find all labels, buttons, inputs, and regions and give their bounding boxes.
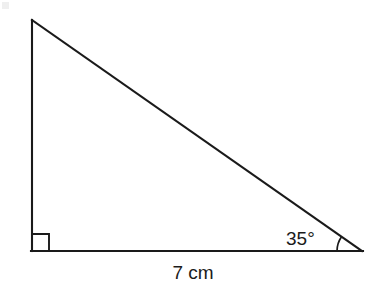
triangle-figure-canvas: 35° 7 cm	[0, 0, 386, 294]
angle-arc-marker	[337, 237, 342, 251]
side-label-7-cm: 7 cm	[172, 262, 213, 283]
triangle-diagram: 35° 7 cm	[0, 0, 386, 294]
hypotenuse-line	[32, 20, 362, 251]
right-angle-marker	[32, 234, 49, 251]
angle-label-35-degrees: 35°	[286, 228, 315, 249]
triangle-outline	[31, 20, 363, 251]
